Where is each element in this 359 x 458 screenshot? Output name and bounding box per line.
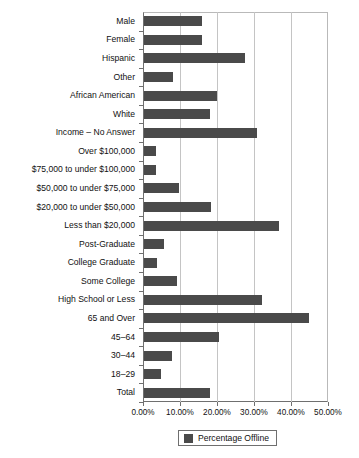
category-label: Less than $20,000 <box>0 220 135 231</box>
bar-row: Some College <box>0 276 359 296</box>
bar-row: White <box>0 109 359 129</box>
bar-row: Total <box>0 388 359 408</box>
bar-row: 30–44 <box>0 351 359 371</box>
bar <box>144 128 257 138</box>
bar-row: College Graduate <box>0 258 359 278</box>
x-axis-tick-labels: 0.00%10.00%20.00%30.00%40.00%50.00% <box>0 407 359 421</box>
bar-chart: MaleFemaleHispanicOtherAfrican AmericanW… <box>0 0 359 458</box>
category-label: Total <box>0 387 135 398</box>
category-label: 18–29 <box>0 369 135 380</box>
bar-row: Post-Graduate <box>0 239 359 259</box>
bar <box>144 35 202 45</box>
bar-row: Hispanic <box>0 53 359 73</box>
bar <box>144 109 210 119</box>
category-label: Hispanic <box>0 53 135 64</box>
category-label: White <box>0 109 135 120</box>
legend-swatch-icon <box>184 434 193 443</box>
x-axis-tick-label: 20.00% <box>197 407 237 418</box>
bar <box>144 53 245 63</box>
bar-row: 18–29 <box>0 369 359 389</box>
bar-row: African American <box>0 91 359 111</box>
bar <box>144 16 202 26</box>
bar <box>144 202 211 212</box>
category-label: 30–44 <box>0 350 135 361</box>
bar <box>144 369 161 379</box>
bar <box>144 351 172 361</box>
category-label: Income – No Answer <box>0 127 135 138</box>
bar-row: $20,000 to under $50,000 <box>0 202 359 222</box>
bar-row: Less than $20,000 <box>0 221 359 241</box>
bar <box>144 165 156 175</box>
bar-row: Male <box>0 16 359 36</box>
bar <box>144 295 262 305</box>
bar <box>144 72 173 82</box>
category-label: College Graduate <box>0 257 135 268</box>
category-label: Over $100,000 <box>0 146 135 157</box>
bar-row: $75,000 to under $100,000 <box>0 165 359 185</box>
category-label: Female <box>0 34 135 45</box>
x-axis-tick-label: 0.00% <box>123 407 163 418</box>
category-label: Post-Graduate <box>0 239 135 250</box>
bar-row: Over $100,000 <box>0 146 359 166</box>
bar-row: High School or Less <box>0 295 359 315</box>
category-label: Some College <box>0 276 135 287</box>
x-axis-tick-label: 30.00% <box>234 407 274 418</box>
bar-row: Female <box>0 35 359 55</box>
x-axis-tick-label: 40.00% <box>271 407 311 418</box>
category-label: $20,000 to under $50,000 <box>0 202 135 213</box>
bar <box>144 276 177 286</box>
category-label: High School or Less <box>0 294 135 305</box>
legend: Percentage Offline <box>178 430 277 446</box>
bar <box>144 91 217 101</box>
bar <box>144 313 309 323</box>
x-axis-tick-label: 50.00% <box>308 407 348 418</box>
bar-row: 45–64 <box>0 332 359 352</box>
bar <box>144 183 179 193</box>
bar <box>144 258 157 268</box>
legend-label: Percentage Offline <box>198 433 269 443</box>
bar-row: Other <box>0 72 359 92</box>
category-label: $50,000 to under $75,000 <box>0 183 135 194</box>
category-label: 45–64 <box>0 332 135 343</box>
x-axis-tick-label: 10.00% <box>160 407 200 418</box>
category-label: Other <box>0 72 135 83</box>
bar <box>144 388 210 398</box>
bar <box>144 146 156 156</box>
category-label: African American <box>0 90 135 101</box>
bar-row: Income – No Answer <box>0 128 359 148</box>
category-label: 65 and Over <box>0 313 135 324</box>
bar-row: 65 and Over <box>0 313 359 333</box>
bar <box>144 239 164 249</box>
bar <box>144 221 279 231</box>
category-label: Male <box>0 16 135 27</box>
bar-row: $50,000 to under $75,000 <box>0 183 359 203</box>
bar <box>144 332 219 342</box>
category-label: $75,000 to under $100,000 <box>0 164 135 175</box>
